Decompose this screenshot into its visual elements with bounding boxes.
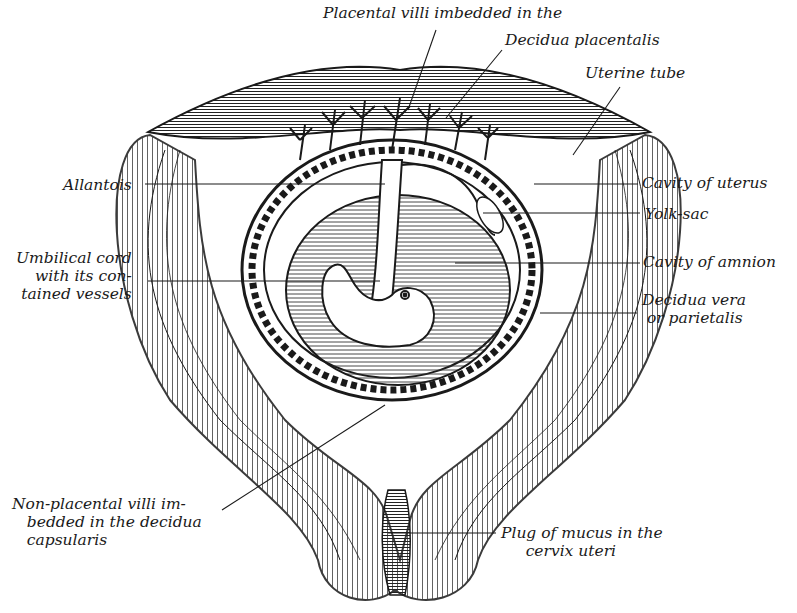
label-cavity-of-amnion: Cavity of amnion	[643, 253, 776, 271]
label-cavity-of-uterus: Cavity of uterus	[642, 174, 767, 192]
label-decidua-vera: Decidua vera or parietalis	[642, 291, 746, 327]
label-plug-of-mucus: Plug of mucus in the cervix uteri	[501, 524, 663, 560]
label-non-placental-villi: Non-placental villi im- bedded in the de…	[12, 495, 202, 549]
label-umbilical-cord: Umbilical cord with its con- tained vess…	[16, 249, 132, 303]
label-uterine-tube: Uterine tube	[585, 64, 685, 82]
cervical-mucus-plug	[382, 490, 410, 595]
label-placental-villi: Placental villi imbedded in the	[323, 4, 562, 22]
label-allantois: Allantois	[63, 176, 132, 194]
label-yolk-sac: Yolk-sac	[645, 205, 708, 223]
label-decidua-placentalis: Decidua placentalis	[505, 31, 660, 49]
